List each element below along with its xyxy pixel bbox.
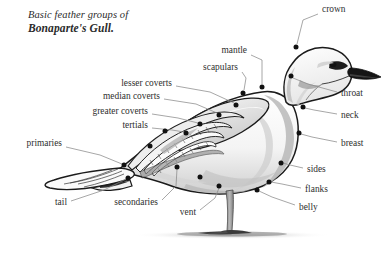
title-line-2: Bonaparte's Gull. <box>28 22 114 34</box>
label-neck: neck <box>341 111 359 120</box>
label-median-coverts: median coverts <box>103 92 160 101</box>
leader-neck <box>305 108 337 114</box>
leader-lesser-coverts <box>176 86 234 103</box>
leader-primaries <box>66 147 122 164</box>
marker-breast <box>297 131 302 136</box>
label-mantle: mantle <box>221 46 247 55</box>
label-breast: breast <box>341 139 363 148</box>
marker-scapulars <box>241 91 246 96</box>
bird-head <box>284 48 381 106</box>
marker-neck <box>301 105 306 110</box>
marker-flanks <box>267 180 272 185</box>
marker-wing-mid <box>163 129 168 134</box>
label-crown: crown <box>322 5 345 14</box>
leader-crown <box>297 14 318 44</box>
marker-belly <box>255 188 260 193</box>
marker-throat <box>289 74 294 79</box>
label-greater-coverts: greater coverts <box>93 107 148 116</box>
marker-greater <box>198 122 203 127</box>
marker-tertials <box>184 131 189 136</box>
marker-mantle <box>260 85 265 90</box>
marker-lesser <box>234 103 239 108</box>
illustration-canvas: Basic feather groups of Bonaparte's Gull… <box>0 0 389 254</box>
label-vent: vent <box>180 208 196 217</box>
label-lesser-coverts: lesser coverts <box>121 79 172 88</box>
leader-mantle <box>251 55 262 84</box>
marker-body-low <box>198 175 203 180</box>
marker-crown <box>294 45 299 50</box>
marker-sides <box>279 161 284 166</box>
label-tail: tail <box>55 198 67 207</box>
marker-secondaries <box>175 165 180 170</box>
bird-leg <box>204 190 252 234</box>
label-scapulars: scapulars <box>203 63 238 72</box>
leader-belly <box>259 191 295 205</box>
marker-primaries <box>122 163 127 168</box>
label-belly: belly <box>299 203 318 212</box>
label-flanks: flanks <box>305 185 328 194</box>
label-secondaries: secondaries <box>114 198 158 207</box>
marker-median <box>217 113 222 118</box>
label-sides: sides <box>307 165 326 174</box>
marker-wing-low <box>148 144 153 149</box>
marker-tail <box>126 176 131 181</box>
marker-vent <box>217 184 222 189</box>
label-tertials: tertials <box>122 121 148 130</box>
leader-breast <box>301 134 337 142</box>
leader-scapulars <box>242 72 246 90</box>
leader-flanks <box>271 182 301 188</box>
label-primaries: primaries <box>27 139 62 148</box>
title-line-1: Basic feather groups of <box>28 9 128 20</box>
label-throat: throat <box>341 89 363 98</box>
